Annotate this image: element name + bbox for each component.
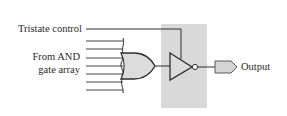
input-bus-line [121,38,124,93]
tristate-diagram: Tristate control From AND gate array Out… [0,0,287,116]
output-pin-icon [215,61,237,73]
from-and-label-line2: gate array [14,64,80,76]
output-label: Output [241,61,270,73]
or-gate-icon [121,53,155,79]
from-and-label-line1: From AND [14,51,80,63]
tristate-control-label: Tristate control [4,23,82,35]
inversion-bubble-icon [192,64,197,69]
input-wires [86,41,123,90]
